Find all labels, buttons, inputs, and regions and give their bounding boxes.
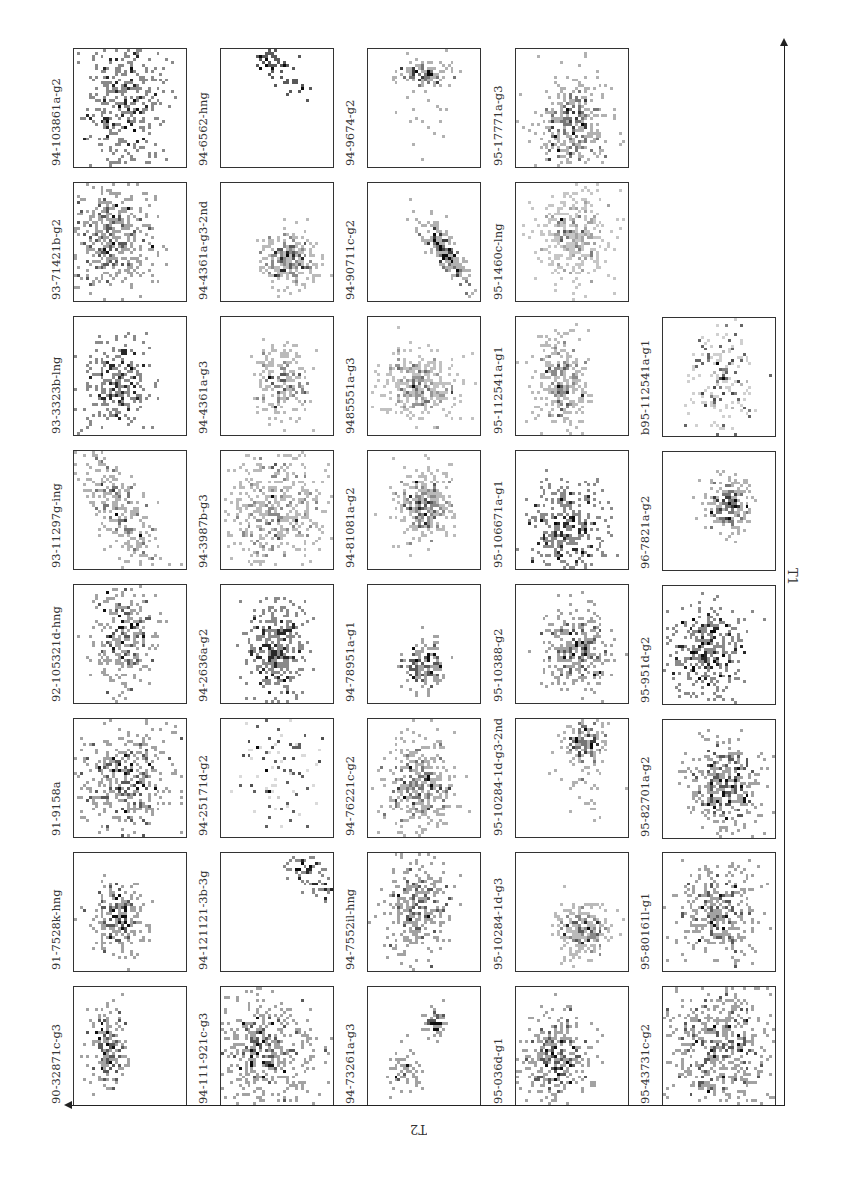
histogram-canvas bbox=[74, 317, 186, 435]
panel-label: 94-9674-g2 bbox=[343, 100, 357, 166]
histogram-canvas bbox=[516, 853, 628, 971]
histogram-panel bbox=[73, 584, 187, 704]
t1-axis-label: T1 bbox=[785, 568, 800, 585]
histogram-canvas bbox=[368, 451, 480, 569]
histogram-panel bbox=[367, 852, 481, 972]
panel-label: b95-112541a-g1 bbox=[638, 340, 652, 435]
t1-axis-arrow-icon bbox=[780, 38, 788, 46]
histogram-canvas bbox=[663, 987, 775, 1105]
histogram-canvas bbox=[368, 719, 480, 837]
t2-axis-label: T2 bbox=[410, 1122, 427, 1137]
histogram-canvas bbox=[221, 317, 333, 435]
panel-label: 94-3987b-g3 bbox=[196, 494, 210, 568]
panel-label: 91-7528k-hng bbox=[49, 889, 63, 970]
histogram-canvas bbox=[74, 49, 186, 167]
panel-label: 94-6562-hng bbox=[196, 92, 210, 166]
panel-label: 95-106671a-g1 bbox=[491, 480, 505, 568]
panel-label: 94-2636a-g2 bbox=[196, 629, 210, 702]
histogram-canvas bbox=[221, 451, 333, 569]
histogram-panel bbox=[73, 316, 187, 436]
panel-label: 94-25171d-g2 bbox=[196, 755, 210, 836]
histogram-canvas bbox=[663, 318, 775, 436]
histogram-panel bbox=[662, 986, 776, 1106]
histogram-canvas bbox=[663, 720, 775, 838]
histogram-panel bbox=[220, 182, 334, 302]
histogram-panel bbox=[73, 48, 187, 168]
histogram-panel bbox=[367, 584, 481, 704]
histogram-canvas bbox=[516, 585, 628, 703]
histogram-panel bbox=[515, 182, 629, 302]
histogram-panel bbox=[73, 450, 187, 570]
histogram-panel bbox=[220, 48, 334, 168]
histogram-panel bbox=[73, 182, 187, 302]
histogram-panel bbox=[220, 718, 334, 838]
histogram-panel bbox=[220, 316, 334, 436]
histogram-canvas bbox=[368, 987, 480, 1105]
panel-label: 91-9158a bbox=[49, 781, 63, 836]
panel-label: 94-81081a-g2 bbox=[343, 487, 357, 568]
histogram-panel bbox=[73, 852, 187, 972]
histogram-panel bbox=[367, 316, 481, 436]
panel-label: 95-82701a-g2 bbox=[638, 756, 652, 837]
panel-label: 95-036d-g1 bbox=[491, 1038, 505, 1104]
panel-label: 93-3323b-lng bbox=[49, 357, 63, 434]
histogram-panel bbox=[662, 585, 776, 705]
panel-label: 94-103861a-g2 bbox=[49, 78, 63, 166]
t2-axis-arrow-icon bbox=[64, 1101, 72, 1109]
histogram-canvas bbox=[221, 585, 333, 703]
panel-label: 96-7821a-g2 bbox=[638, 496, 652, 569]
histogram-canvas bbox=[221, 987, 333, 1105]
histogram-panel bbox=[220, 450, 334, 570]
panel-label: 95-112541a-g1 bbox=[491, 346, 505, 434]
panel-label: 95-17771a-g3 bbox=[491, 85, 505, 166]
histogram-canvas bbox=[663, 452, 775, 570]
panel-label: 95-80161l-g1 bbox=[638, 893, 652, 970]
panel-label: 93-71421b-g2 bbox=[49, 219, 63, 300]
histogram-canvas bbox=[368, 183, 480, 301]
histogram-canvas bbox=[221, 49, 333, 167]
histogram-panel bbox=[367, 182, 481, 302]
histogram-panel bbox=[220, 852, 334, 972]
histogram-canvas bbox=[221, 853, 333, 971]
histogram-panel bbox=[515, 718, 629, 838]
histogram-panel bbox=[515, 316, 629, 436]
histogram-canvas bbox=[74, 719, 186, 837]
histogram-panel bbox=[515, 584, 629, 704]
histogram-panel bbox=[662, 451, 776, 571]
panel-label: 95-43731c-g2 bbox=[638, 1024, 652, 1104]
histogram-canvas bbox=[74, 853, 186, 971]
panel-label: 94-4361a-g3 bbox=[196, 361, 210, 434]
histogram-panel bbox=[73, 986, 187, 1106]
panel-label: 95-1460c-lng bbox=[491, 223, 505, 300]
panel-label: 94-76221c-g2 bbox=[343, 756, 357, 836]
histogram-panel bbox=[367, 718, 481, 838]
histogram-canvas bbox=[663, 853, 775, 971]
histogram-canvas bbox=[74, 987, 186, 1105]
histogram-panel bbox=[220, 584, 334, 704]
histogram-panel bbox=[515, 852, 629, 972]
panel-label: 94-7552il-hng bbox=[343, 889, 357, 970]
histogram-canvas bbox=[368, 853, 480, 971]
histogram-panel bbox=[662, 852, 776, 972]
histogram-panel bbox=[515, 450, 629, 570]
histogram-panel bbox=[367, 48, 481, 168]
panel-label: 95-10284-1d-g3-2nd bbox=[491, 718, 505, 836]
histogram-canvas bbox=[516, 317, 628, 435]
histogram-canvas bbox=[368, 317, 480, 435]
panel-label: 9485551a-g3 bbox=[343, 357, 357, 434]
panel-label: 94-121121-3b-3g bbox=[196, 870, 210, 970]
panel-label: 94-90711c-g2 bbox=[343, 220, 357, 300]
histogram-canvas bbox=[516, 49, 628, 167]
panel-label: 94-78951a-g1 bbox=[343, 621, 357, 702]
panel-label: 94-111-921c-g3 bbox=[196, 1013, 210, 1104]
panel-label: 94-73261a-g3 bbox=[343, 1023, 357, 1104]
histogram-canvas bbox=[516, 451, 628, 569]
histogram-panel bbox=[220, 986, 334, 1106]
panel-label: 90-32871c-g3 bbox=[49, 1024, 63, 1104]
histogram-canvas bbox=[516, 183, 628, 301]
histogram-canvas bbox=[516, 719, 628, 837]
panel-label: 93-11297g-ing bbox=[49, 483, 63, 568]
histogram-canvas bbox=[221, 719, 333, 837]
histogram-panel bbox=[662, 317, 776, 437]
histogram-panel bbox=[515, 48, 629, 168]
